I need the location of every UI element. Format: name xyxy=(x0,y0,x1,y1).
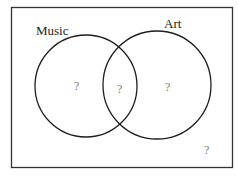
art-set-label: Art xyxy=(164,16,182,31)
art-only-value: ? xyxy=(165,80,170,94)
music-set-label: Music xyxy=(36,23,69,38)
intersection-value: ? xyxy=(117,82,122,96)
music-only-value: ? xyxy=(74,79,79,93)
outside-value: ? xyxy=(204,143,209,157)
venn-diagram: Music Art ? ? ? ? xyxy=(0,0,238,177)
